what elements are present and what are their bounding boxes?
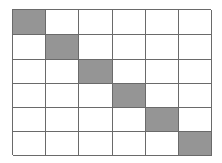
grid-cell xyxy=(13,84,46,108)
grid-cell-filled xyxy=(46,35,79,60)
grid-cell xyxy=(46,60,79,84)
grid-cell xyxy=(179,60,212,84)
grid-cell xyxy=(179,35,212,60)
grid-cell xyxy=(13,108,46,132)
grid-cell xyxy=(146,35,179,60)
grid-cell-filled xyxy=(146,108,179,132)
grid-cell xyxy=(79,84,113,108)
grid-cell xyxy=(113,10,146,35)
diagonal-grid xyxy=(12,9,211,155)
grid-cell xyxy=(113,60,146,84)
grid-cell-filled xyxy=(79,60,113,84)
grid-cell xyxy=(79,108,113,132)
grid-cell xyxy=(79,35,113,60)
grid-cell xyxy=(79,132,113,156)
grid-cell xyxy=(13,60,46,84)
grid-cell xyxy=(146,60,179,84)
grid-cell xyxy=(113,132,146,156)
grid-cell xyxy=(46,108,79,132)
grid-cell xyxy=(146,132,179,156)
grid-cell xyxy=(179,84,212,108)
grid-cell xyxy=(113,35,146,60)
grid-cell xyxy=(13,132,46,156)
grid-cell xyxy=(146,10,179,35)
grid-cell xyxy=(179,10,212,35)
grid-cell xyxy=(179,108,212,132)
grid-cell-filled xyxy=(179,132,212,156)
grid-cell-filled xyxy=(13,10,46,35)
grid-cell xyxy=(146,84,179,108)
grid-cell xyxy=(79,10,113,35)
grid-cell xyxy=(113,108,146,132)
grid-cell xyxy=(46,132,79,156)
grid-cell-filled xyxy=(113,84,146,108)
grid-cell xyxy=(13,35,46,60)
grid-cell xyxy=(46,84,79,108)
grid-cell xyxy=(46,10,79,35)
